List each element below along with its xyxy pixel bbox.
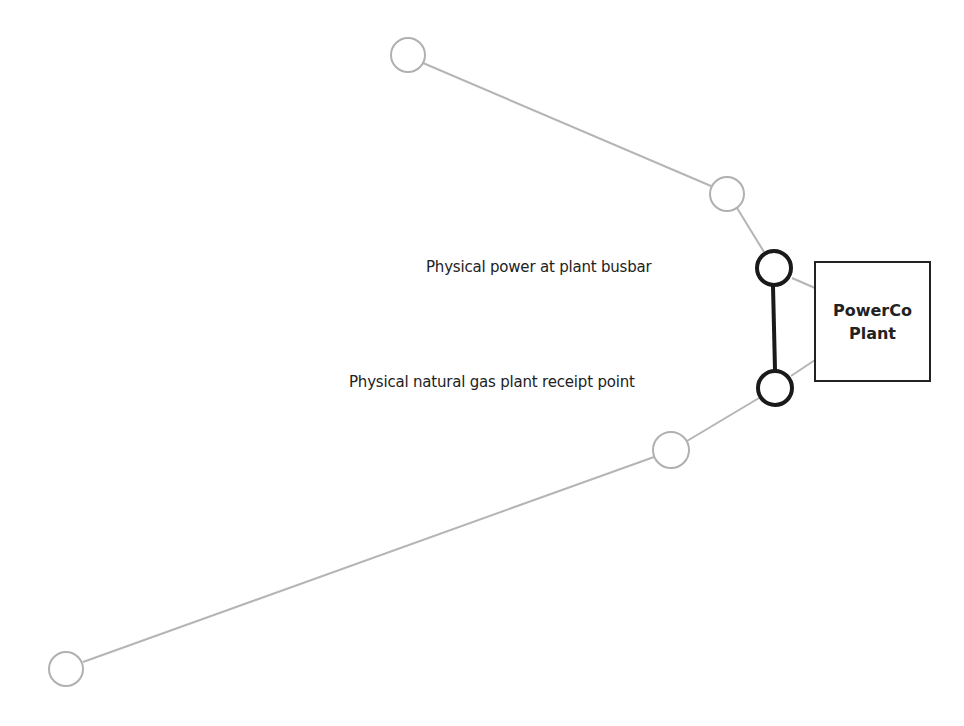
node-gas-receipt (758, 371, 792, 405)
node-gas-upstream-far (49, 652, 83, 686)
node-power-busbar (757, 251, 791, 285)
edge-receipt-to-plant (791, 360, 815, 376)
label-gas-receipt: Physical natural gas plant receipt point (349, 373, 635, 391)
plant-name-line2: Plant (849, 322, 896, 345)
node-power-upstream-near (710, 177, 744, 211)
node-power-upstream-far (391, 38, 425, 72)
powerco-plant-box: PowerCo Plant (814, 261, 931, 382)
edge-busbar-to-receipt (773, 286, 775, 370)
edge-busbar-to-plant (792, 278, 815, 288)
edge-power-near-to-busbar (737, 208, 764, 252)
node-gas-upstream-near (653, 432, 689, 468)
edge-power-far-to-near (423, 63, 711, 186)
edge-receipt-to-gas-near (687, 398, 759, 441)
edge-gas-near-to-far (83, 457, 654, 662)
plant-name-line1: PowerCo (833, 299, 912, 322)
label-power-busbar: Physical power at plant busbar (426, 258, 652, 276)
